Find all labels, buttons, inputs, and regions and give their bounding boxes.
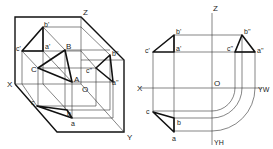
label-point-A: A (74, 75, 80, 84)
label-point-B: B (66, 42, 71, 51)
label-a-dprime: a'' (257, 47, 264, 54)
label-z: Z (213, 4, 218, 13)
label-yh: YH (214, 139, 224, 146)
triangle-v-projection (22, 27, 43, 51)
label-c-dprime: c'' (86, 67, 92, 74)
label-z: Z (83, 8, 88, 17)
construction-lines (22, 27, 124, 118)
label-origin: O (82, 85, 88, 94)
label-b-dprime: b'' (244, 28, 251, 35)
triangle-w-projection (96, 55, 113, 82)
triangle-top-view (153, 112, 174, 132)
triangle-side-view (235, 35, 255, 52)
label-yw: YW (258, 86, 270, 93)
label-c-prime: c' (145, 47, 150, 54)
label-point-C: C (31, 65, 37, 74)
label-a-prime: a' (176, 45, 181, 52)
construction-lines (153, 35, 255, 132)
label-x: X (7, 80, 13, 89)
right-diagram: Z X O YW YH b' c' a' b'' c'' a'' c b a (137, 4, 270, 146)
label-a-h: a (71, 120, 75, 127)
label-a-prime: a' (45, 43, 50, 50)
label-a-dprime: a'' (112, 79, 119, 86)
label-a-h: a (172, 135, 176, 142)
label-c-h: c (31, 99, 35, 106)
label-x: X (137, 84, 143, 93)
projection-figure: Z X Y O A B C b' c' a' b'' c'' a'' c b a (0, 0, 273, 149)
label-c-h: c (146, 108, 150, 115)
label-b-h: b (67, 110, 71, 117)
label-c-dprime: c'' (227, 45, 233, 52)
label-b-prime: b' (176, 28, 181, 35)
label-b-dprime: b'' (112, 50, 119, 57)
label-b-h: b (177, 119, 181, 126)
label-origin: O (214, 79, 220, 88)
triangle-front-view (153, 35, 174, 52)
left-diagram: Z X Y O A B C b' c' a' b'' c'' a'' c b a (7, 8, 133, 142)
label-y: Y (127, 133, 133, 142)
label-b-prime: b' (44, 21, 49, 28)
label-c-prime: c' (16, 45, 21, 52)
